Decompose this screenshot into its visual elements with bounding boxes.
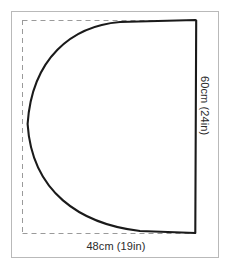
shape-outline [28,20,197,233]
dimension-diagram: 48cm (19in) 60cm (24in) [0,0,232,273]
width-dimension-label: 48cm (19in) [0,241,232,252]
height-dimension-label-wrapper: 60cm (24in) [196,76,210,176]
height-dimension-label: 60cm (24in) [199,76,210,176]
